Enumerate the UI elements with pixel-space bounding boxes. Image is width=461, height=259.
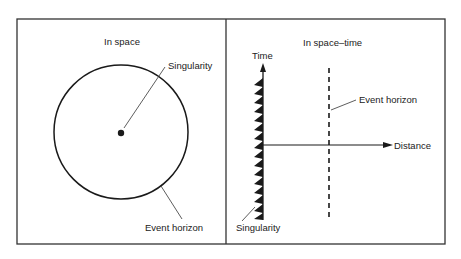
event-horizon-leader-line-right: [331, 100, 356, 110]
outer-frame: [17, 19, 445, 244]
singularity-leader-line: [124, 67, 165, 128]
left-panel-title: In space: [104, 37, 140, 47]
right-panel-title: In space–time: [303, 38, 362, 48]
distance-axis-label: Distance: [394, 141, 431, 151]
singularity-leader-line-right: [242, 207, 255, 221]
distance-axis-arrowhead: [383, 142, 393, 148]
diagram-canvas: [0, 0, 461, 259]
event-horizon-label-left: Event horizon: [145, 223, 203, 233]
event-horizon-label-right: Event horizon: [359, 95, 417, 105]
singularity-label-left: Singularity: [168, 61, 212, 71]
time-axis-label: Time: [252, 51, 273, 61]
event-horizon-leader-line: [161, 186, 182, 219]
singularity-label-right: Singularity: [236, 223, 280, 233]
time-axis-arrowhead: [260, 63, 266, 72]
singularity-sawtooth: [254, 78, 263, 220]
singularity-dot: [118, 130, 124, 136]
